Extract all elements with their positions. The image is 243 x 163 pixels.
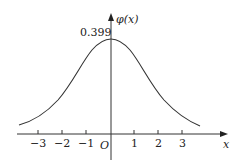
x-tick-label: 2: [155, 138, 162, 149]
x-axis-arrow-icon: [220, 131, 228, 137]
x-tick-label: −1: [78, 138, 94, 149]
y-axis-label: φ(x): [116, 14, 139, 25]
x-tick-label: −3: [30, 138, 46, 149]
x-axis-label: x: [223, 139, 229, 150]
normal-density-curve: [19, 39, 200, 126]
x-ticks: [38, 130, 182, 134]
y-axis-arrow-icon: [108, 13, 114, 21]
peak-value-label: 0.399: [80, 27, 112, 38]
x-tick-label: 3: [179, 138, 186, 149]
x-tick-label: 1: [131, 138, 138, 149]
x-tick-label: −2: [54, 138, 70, 149]
origin-label: O: [100, 140, 109, 151]
